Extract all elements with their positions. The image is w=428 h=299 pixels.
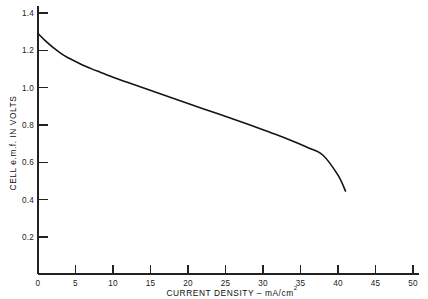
x-axis-title-text: CURRENT DENSITY – mA/cm	[166, 288, 293, 298]
x-tick-label: 45	[371, 279, 381, 288]
y-axis-ticks	[38, 13, 48, 237]
x-tick-label: 15	[146, 279, 156, 288]
chart-plot-area: 1.4 1.2 1.0 0.8 0.6 0.4 0.2 0 5 10 15 20…	[0, 0, 428, 299]
x-tick-label: 40	[333, 279, 343, 288]
x-tick-label: 0	[36, 279, 41, 288]
x-tick-label: 10	[108, 279, 118, 288]
x-tick-label: 5	[73, 279, 78, 288]
y-tick-label: 0.2	[22, 233, 34, 242]
data-curve-cell-emf	[38, 34, 346, 192]
x-tick-label: 20	[183, 279, 193, 288]
y-tick-label: 0.8	[22, 121, 34, 130]
y-tick-label: 0.4	[22, 196, 34, 205]
y-tick-label: 0.6	[22, 158, 34, 167]
x-tick-label: 50	[408, 279, 418, 288]
x-tick-label: 25	[221, 279, 231, 288]
chart-figure: 1.4 1.2 1.0 0.8 0.6 0.4 0.2 0 5 10 15 20…	[0, 0, 428, 299]
x-tick-label: 30	[258, 279, 268, 288]
y-tick-labels: 1.4 1.2 1.0 0.8 0.6 0.4 0.2	[22, 9, 34, 242]
y-axis-title: CELL e.m.f. IN VOLTS	[8, 96, 18, 191]
x-axis-title-superscript: 2	[294, 285, 298, 291]
y-tick-label: 1.4	[22, 9, 34, 18]
x-tick-labels: 0 5 10 15 20 25 30 35 40 45 50	[36, 279, 418, 288]
x-axis-ticks	[38, 265, 413, 274]
y-tick-label: 1.0	[22, 84, 34, 93]
y-tick-label: 1.2	[22, 46, 34, 55]
